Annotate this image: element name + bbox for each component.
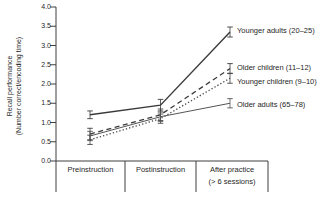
series-line-1 (90, 69, 230, 134)
legend-label-younger-children: Younger children (9–10) (237, 77, 317, 87)
category-label-line2: (> 6 sessions) (192, 176, 272, 188)
recall-performance-chart: Recall performance (Number correct/encod… (0, 0, 331, 198)
x-category-after-practice: After practice (> 6 sessions) (192, 164, 272, 188)
legend-label-younger-adults: Younger adults (20–25) (237, 26, 315, 36)
legend-label-older-adults: Older adults (65–78) (237, 100, 305, 110)
category-label-line1: Preinstruction (51, 164, 131, 176)
x-category-preinstruction: Preinstruction (51, 164, 131, 176)
x-category-postinstruction: Postinstruction (121, 164, 201, 176)
series-line-3 (90, 103, 230, 136)
category-label-line1: Postinstruction (121, 164, 201, 176)
category-label-line1: After practice (192, 164, 272, 176)
legend-label-older-children: Older children (11–12) (237, 63, 311, 73)
series-line-0 (90, 32, 230, 115)
